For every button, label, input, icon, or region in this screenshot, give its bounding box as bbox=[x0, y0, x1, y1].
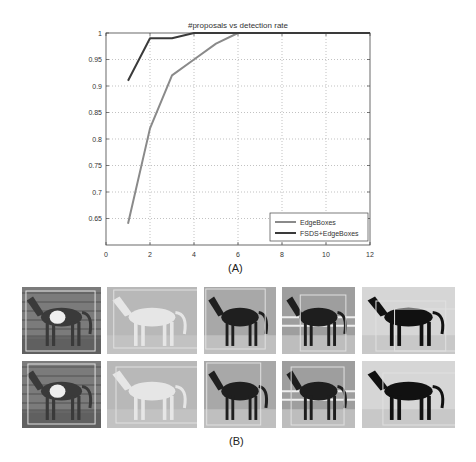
line-chart: 0246810120.650.70.750.80.850.90.951 #pro… bbox=[0, 0, 476, 280]
horse-image bbox=[204, 361, 276, 428]
x-tick-label: 12 bbox=[366, 251, 374, 258]
y-tick-label: 1 bbox=[98, 30, 102, 37]
horse-image bbox=[22, 361, 101, 428]
y-tick-label: 0.8 bbox=[92, 136, 102, 143]
horse-image bbox=[107, 287, 197, 354]
horse-image bbox=[282, 361, 355, 428]
y-tick-label: 0.65 bbox=[88, 215, 102, 222]
horse-image bbox=[362, 361, 455, 428]
horse-image bbox=[204, 287, 276, 354]
x-tick-label: 4 bbox=[192, 251, 196, 258]
horse-image bbox=[362, 287, 455, 354]
horse-image bbox=[282, 287, 355, 354]
y-tick-label: 0.9 bbox=[92, 83, 102, 90]
x-tick-label: 10 bbox=[322, 251, 330, 258]
x-tick-label: 0 bbox=[104, 251, 108, 258]
y-tick-label: 0.75 bbox=[88, 162, 102, 169]
x-tick-label: 6 bbox=[236, 251, 240, 258]
horse-image bbox=[107, 361, 197, 428]
panel-b-label: (B) bbox=[229, 435, 244, 447]
x-tick-label: 2 bbox=[148, 251, 152, 258]
y-tick-label: 0.85 bbox=[88, 109, 102, 116]
panel-a-label: (A) bbox=[228, 262, 243, 274]
y-tick-label: 0.7 bbox=[92, 189, 102, 196]
legend: EdgeBoxesFSDS+EdgeBoxes bbox=[270, 213, 368, 241]
legend-label: FSDS+EdgeBoxes bbox=[300, 230, 359, 238]
legend-box bbox=[270, 213, 368, 241]
legend-label: EdgeBoxes bbox=[300, 219, 336, 227]
chart-title: #proposals vs detection rate bbox=[188, 21, 289, 30]
horse-image bbox=[22, 287, 101, 354]
y-tick-label: 0.95 bbox=[88, 56, 102, 63]
x-tick-label: 8 bbox=[280, 251, 284, 258]
